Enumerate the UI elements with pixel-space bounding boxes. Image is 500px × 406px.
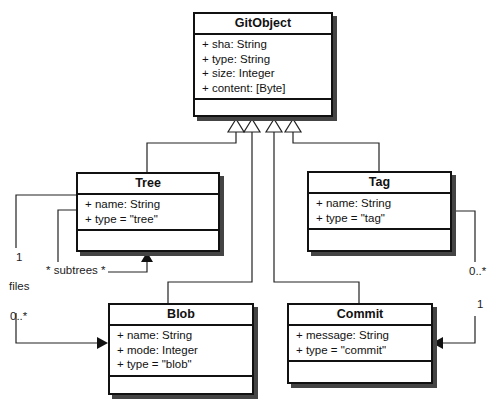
multiplicity-label: 1 [477,298,483,310]
multiplicity-label: 0..* [10,310,27,322]
attribute-list: + name: String + type = "tag" [309,194,450,230]
multiplicity-label: 1 [16,251,22,263]
attribute: + name: String [316,196,450,211]
attribute-list: + message: String + type = "commit" [289,326,431,362]
class-tree[interactable]: Tree + name: String + type = "tree" [76,172,220,252]
class-tag[interactable]: Tag + name: String + type = "tag" [307,171,452,252]
attribute: + type = "tag" [316,211,450,226]
attribute-list: + name: String + mode: Integer + type = … [110,326,252,377]
class-commit[interactable]: Commit + message: String + type = "commi… [287,303,433,384]
attribute: + type = "blob" [117,357,252,372]
attribute-list: + name: String + type = "tree" [78,195,218,231]
attribute: + name: String [117,328,252,343]
class-blob[interactable]: Blob + name: String + mode: Integer + ty… [108,303,254,395]
attribute: + size: Integer [202,66,331,81]
attribute: + mode: Integer [117,343,252,358]
attribute: + message: String [296,328,431,343]
class-gitobject[interactable]: GitObject + sha: String + type: String +… [193,12,333,117]
attribute-list: + sha: String + type: String + size: Int… [195,35,331,100]
attribute: + type = "tree" [85,212,218,227]
association-label-files: files [9,280,29,292]
attribute: + type: String [202,52,331,67]
multiplicity-label: 0..* [469,265,486,277]
class-name: Tree [78,174,218,195]
class-name: Tag [309,173,450,194]
class-name: Blob [110,305,252,326]
class-name: Commit [289,305,431,326]
class-name: GitObject [195,14,331,35]
attribute: + type = "commit" [296,343,431,358]
association-label-subtrees: * subtrees * [46,264,105,276]
attribute: + name: String [85,197,218,212]
attribute: + content: [Byte] [202,81,331,96]
attribute: + sha: String [202,37,331,52]
generalization-arrows [228,119,301,132]
